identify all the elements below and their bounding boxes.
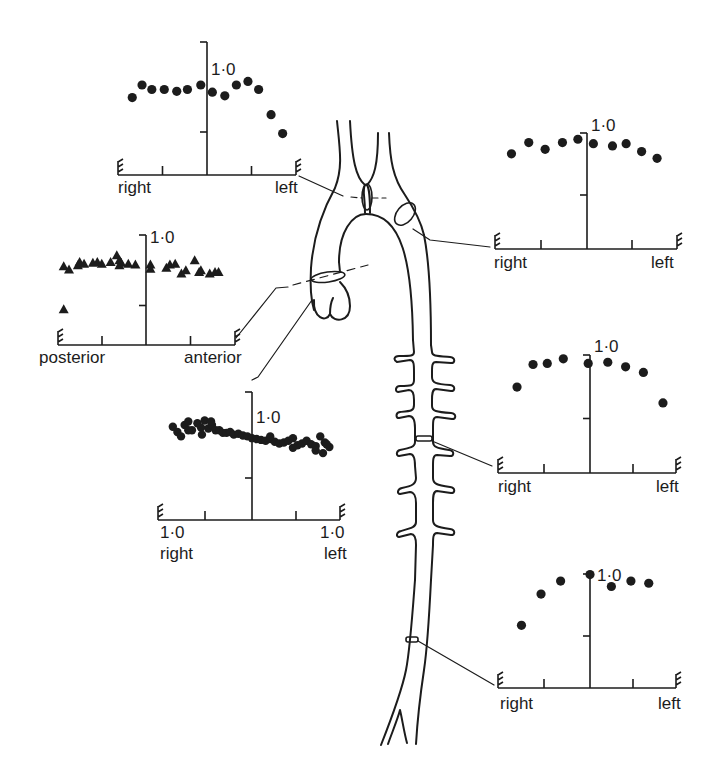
panel-abdominal-aorta: [498, 570, 681, 688]
panel1-x-right-label: left: [275, 179, 298, 196]
panel-axes: [58, 235, 240, 345]
panel3-y-label: 1·0: [150, 229, 175, 246]
panel3-x-right-label: anterior: [184, 349, 242, 366]
panel-axes: [498, 355, 681, 473]
measurement-sites: [310, 184, 432, 642]
panel-data-points: [59, 250, 224, 313]
panel-data-points: [517, 570, 653, 630]
panel-aortic-arch-distal: [495, 133, 682, 249]
panel-axes: [498, 574, 681, 688]
panel-axes: [118, 42, 301, 175]
panel-descending-thoracic: [498, 354, 681, 473]
panel2-x-left-label: right: [494, 254, 527, 271]
panel6-x-left-label: right: [500, 695, 533, 712]
panel6-x-right-label: left: [658, 695, 681, 712]
panel4-y-label: 1·0: [256, 409, 281, 426]
panel3-x-left-label: posterior: [39, 349, 105, 366]
panel2-y-label: 1·0: [591, 117, 616, 134]
panel1-x-left-label: right: [118, 179, 151, 196]
panel5-y-label: 1·0: [594, 338, 619, 355]
panel-data-points: [507, 135, 662, 163]
panel-data-points: [169, 416, 334, 457]
panel-aortic-root: [58, 235, 240, 345]
panel4-x-left-label: right: [160, 545, 193, 562]
panel-axes: [495, 133, 682, 249]
panel1-y-label: 1·0: [211, 61, 236, 78]
panel-aortic-arch-proximal: [118, 42, 301, 175]
panel5-x-left-label: right: [498, 478, 531, 495]
panel4-x-right-value: 1·0: [320, 524, 345, 541]
panel4-x-right-label: left: [324, 545, 347, 562]
panel4-x-left-value: 1·0: [160, 524, 185, 541]
panel5-x-right-label: left: [656, 478, 679, 495]
panel-ascending-aorta: [158, 392, 345, 520]
panel-axes: [158, 392, 345, 520]
leader-lines: [236, 176, 494, 685]
panel2-x-right-label: left: [651, 254, 674, 271]
panels-layer: [58, 42, 682, 688]
panel6-y-label: 1·0: [597, 567, 622, 584]
aorta-outline: [311, 121, 456, 745]
